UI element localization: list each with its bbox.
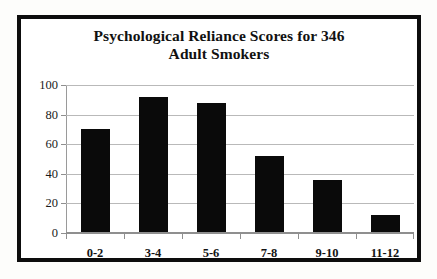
y-axis-tick-label: 80 <box>46 107 59 122</box>
bar-slot <box>356 85 414 233</box>
x-axis-tick-mark <box>124 233 125 239</box>
y-axis-tick-label: 0 <box>52 226 58 241</box>
x-axis-category-label: 9-10 <box>298 233 356 263</box>
x-axis-category-label: 0-2 <box>66 233 124 263</box>
x-axis-tick-label: 0-2 <box>87 246 104 260</box>
bar[interactable] <box>313 180 342 233</box>
chart-title-line-1: Psychological Reliance Scores for 346 <box>93 27 344 44</box>
bar-slot <box>124 85 182 233</box>
x-axis-tick-label: 11-12 <box>371 246 399 260</box>
bar-slot <box>298 85 356 233</box>
x-axis-tick-mark <box>356 233 357 239</box>
bar[interactable] <box>371 215 400 233</box>
plot-area: 020406080100 <box>66 85 414 233</box>
y-axis-tick-label: 100 <box>39 78 58 93</box>
x-axis-category-label: 3-4 <box>124 233 182 263</box>
x-axis-category-labels: 0-23-45-67-89-1011-12 <box>66 233 414 263</box>
y-axis-tick-label: 20 <box>46 196 59 211</box>
x-axis-category-label: 11-12 <box>356 233 414 263</box>
x-axis-tick-mark <box>413 233 414 239</box>
x-axis-tick-label: 9-10 <box>316 246 339 260</box>
y-axis-tick-label: 40 <box>46 166 59 181</box>
x-axis-tick-mark <box>66 233 67 239</box>
bar[interactable] <box>81 129 110 233</box>
chart-title: Psychological Reliance Scores for 346Adu… <box>21 27 417 63</box>
x-axis-tick-label: 5-6 <box>203 246 220 260</box>
bar-slot <box>240 85 298 233</box>
bar-slot <box>182 85 240 233</box>
x-axis-category-label: 5-6 <box>182 233 240 263</box>
x-axis-tick-mark <box>298 233 299 239</box>
bar[interactable] <box>197 103 226 233</box>
bar[interactable] <box>255 156 284 233</box>
bar-slot <box>66 85 124 233</box>
x-axis-category-label: 7-8 <box>240 233 298 263</box>
x-axis-tick-mark <box>240 233 241 239</box>
chart-figure: Psychological Reliance Scores for 346Adu… <box>17 15 421 262</box>
x-axis-tick-label: 3-4 <box>145 246 162 260</box>
x-axis-tick-mark <box>182 233 183 239</box>
bar-series <box>66 85 414 233</box>
y-axis-tick-label: 60 <box>46 137 59 152</box>
x-axis-tick-label: 7-8 <box>261 246 278 260</box>
chart-title-line-2: Adult Smokers <box>21 45 417 63</box>
bar[interactable] <box>139 97 168 233</box>
